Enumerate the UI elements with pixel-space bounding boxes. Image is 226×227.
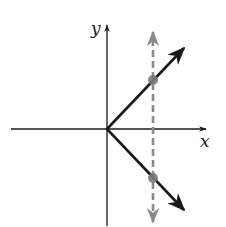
- vertical-line-test-diagram: y x: [0, 0, 226, 227]
- intersection-point-upper: [148, 75, 158, 85]
- intersection-point-lower: [148, 173, 158, 183]
- upper-ray: [107, 48, 184, 129]
- y-axis-label: y: [90, 18, 101, 38]
- x-axis-label: x: [200, 131, 210, 151]
- lower-ray: [107, 129, 184, 210]
